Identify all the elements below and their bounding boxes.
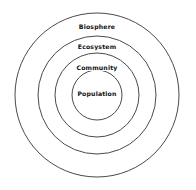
label-community: Community [75, 65, 120, 71]
label-biosphere: Biosphere [77, 24, 117, 30]
label-ecosystem: Ecosystem [76, 44, 119, 50]
concentric-circles-diagram: Biosphere Ecosystem Community Population [0, 0, 196, 190]
label-population: Population [75, 91, 118, 97]
